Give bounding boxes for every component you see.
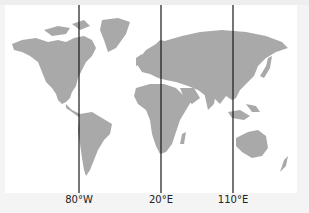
- south-america: [78, 112, 112, 176]
- greenland: [100, 18, 130, 52]
- north-america: [12, 36, 96, 104]
- meridian-label-20e: 20°E: [149, 194, 173, 205]
- land-masses: [12, 18, 288, 176]
- meridian-label-80w: 80°W: [65, 194, 93, 205]
- world-map-graphic: [0, 0, 309, 213]
- meridian-label-110e: 110°E: [218, 194, 248, 205]
- australia: [236, 130, 268, 158]
